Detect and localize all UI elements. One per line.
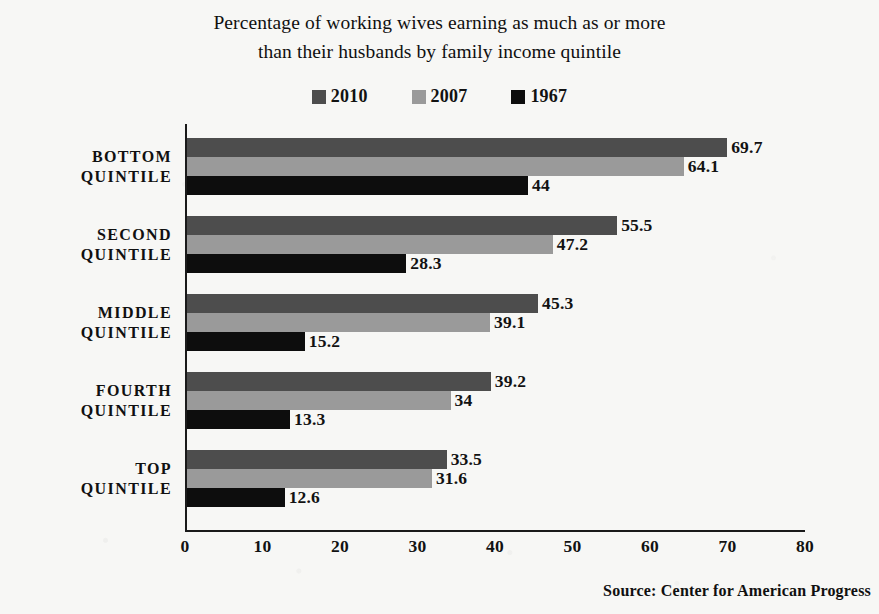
category-label: BOTTOMQUINTILE [0, 147, 172, 187]
bar-value-label: 55.5 [621, 215, 652, 236]
bar-group: 45.339.115.2 [187, 294, 805, 351]
bar-2007[interactable] [187, 157, 684, 176]
bar-2010[interactable] [187, 216, 617, 235]
bar-value-label: 15.2 [309, 331, 340, 352]
x-tick-label: 20 [331, 536, 349, 557]
bar-row: 39.2 [187, 372, 805, 391]
category-label-line: MIDDLE [0, 303, 172, 323]
x-axis-tick-labels: 01020304050607080 [185, 536, 805, 560]
bar-2010[interactable] [187, 372, 491, 391]
bar-row: 31.6 [187, 469, 805, 488]
bar-value-label: 39.2 [495, 371, 526, 392]
category-label: FOURTHQUINTILE [0, 381, 172, 421]
bar-value-label: 44 [532, 175, 550, 196]
x-tick-label: 10 [253, 536, 271, 557]
x-tick-label: 70 [718, 536, 736, 557]
bar-2007[interactable] [187, 391, 451, 410]
category-label-line: QUINTILE [0, 323, 172, 343]
bar-value-label: 47.2 [557, 234, 588, 255]
legend-item-1967[interactable]: 1967 [511, 86, 567, 107]
category-label-line: SECOND [0, 225, 172, 245]
bar-2007[interactable] [187, 235, 553, 254]
bar-row: 15.2 [187, 332, 805, 351]
legend-swatch-2007 [412, 90, 426, 104]
category-label: SECONDQUINTILE [0, 225, 172, 265]
bar-2010[interactable] [187, 450, 447, 469]
legend-swatch-2010 [312, 90, 326, 104]
category-label-line: QUINTILE [0, 479, 172, 499]
bar-2007[interactable] [187, 313, 490, 332]
x-axis-line [185, 530, 805, 532]
bar-group: 39.23413.3 [187, 372, 805, 429]
source-attribution: Source: Center for American Progress [603, 582, 871, 600]
chart-title-line-1: Percentage of working wives earning as m… [0, 8, 879, 37]
bar-value-label: 28.3 [410, 253, 441, 274]
bar-row: 45.3 [187, 294, 805, 313]
bar-value-label: 31.6 [436, 468, 467, 489]
category-label: TOPQUINTILE [0, 459, 172, 499]
bar-value-label: 45.3 [542, 293, 573, 314]
legend-label-2010: 2010 [331, 86, 368, 107]
bar-row: 69.7 [187, 138, 805, 157]
bar-row: 44 [187, 176, 805, 195]
bar-group: 55.547.228.3 [187, 216, 805, 273]
bar-1967[interactable] [187, 254, 406, 273]
legend-item-2010[interactable]: 2010 [312, 86, 368, 107]
chart-legend: 201020071967 [0, 86, 879, 107]
x-tick-label: 0 [180, 536, 189, 557]
legend-swatch-1967 [511, 90, 525, 104]
bar-value-label: 33.5 [451, 449, 482, 470]
chart-title-line-2: than their husbands by family income qui… [0, 37, 879, 66]
bar-value-label: 34 [455, 390, 473, 411]
plot-area: 69.764.14455.547.228.345.339.115.239.234… [185, 124, 805, 532]
category-label: MIDDLEQUINTILE [0, 303, 172, 343]
chart-page: Percentage of working wives earning as m… [0, 0, 879, 614]
legend-item-2007[interactable]: 2007 [412, 86, 468, 107]
x-tick-label: 60 [641, 536, 659, 557]
bar-value-label: 39.1 [494, 312, 525, 333]
bar-row: 34 [187, 391, 805, 410]
x-tick-label: 30 [408, 536, 426, 557]
x-tick-label: 50 [563, 536, 581, 557]
x-tick-label: 40 [486, 536, 504, 557]
bar-1967[interactable] [187, 410, 290, 429]
category-label-line: QUINTILE [0, 401, 172, 421]
category-label-line: FOURTH [0, 381, 172, 401]
bar-group: 33.531.612.6 [187, 450, 805, 507]
bar-2007[interactable] [187, 469, 432, 488]
bar-value-label: 13.3 [294, 409, 325, 430]
bar-value-label: 64.1 [688, 156, 719, 177]
bar-row: 39.1 [187, 313, 805, 332]
bar-row: 64.1 [187, 157, 805, 176]
bar-row: 13.3 [187, 410, 805, 429]
bar-2010[interactable] [187, 294, 538, 313]
bar-1967[interactable] [187, 176, 528, 195]
category-label-line: TOP [0, 459, 172, 479]
category-label-line: BOTTOM [0, 147, 172, 167]
bar-2010[interactable] [187, 138, 727, 157]
bar-value-label: 12.6 [289, 487, 320, 508]
bar-row: 28.3 [187, 254, 805, 273]
chart-title: Percentage of working wives earning as m… [0, 8, 879, 66]
bar-row: 33.5 [187, 450, 805, 469]
bar-group: 69.764.144 [187, 138, 805, 195]
category-label-line: QUINTILE [0, 245, 172, 265]
bar-row: 47.2 [187, 235, 805, 254]
bar-value-label: 69.7 [731, 137, 762, 158]
x-tick-label: 80 [796, 536, 814, 557]
category-label-line: QUINTILE [0, 167, 172, 187]
bar-1967[interactable] [187, 488, 285, 507]
legend-label-2007: 2007 [431, 86, 468, 107]
bar-row: 55.5 [187, 216, 805, 235]
bar-1967[interactable] [187, 332, 305, 351]
bar-row: 12.6 [187, 488, 805, 507]
legend-label-1967: 1967 [530, 86, 567, 107]
